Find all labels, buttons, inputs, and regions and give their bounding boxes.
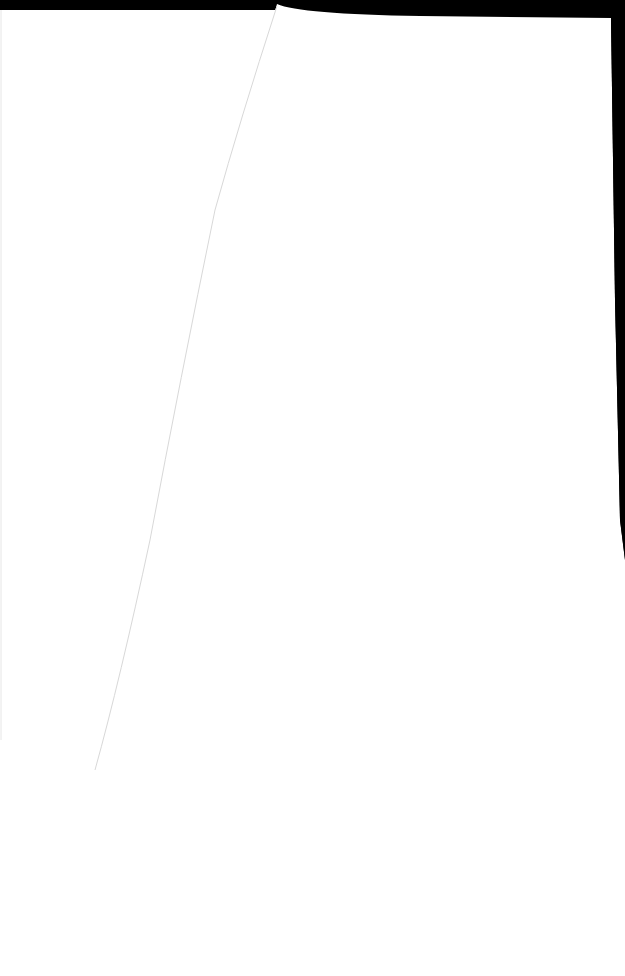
photo-scene xyxy=(0,0,625,976)
paper-sheets xyxy=(0,0,625,976)
